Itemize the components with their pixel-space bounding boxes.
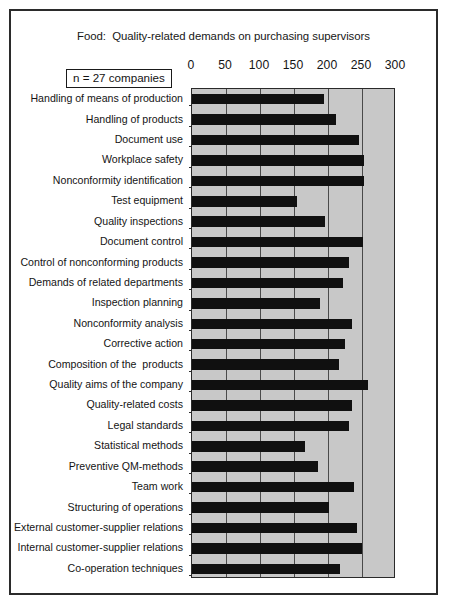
y-axis-tick — [189, 208, 192, 209]
category-label: Inspection planning — [92, 296, 183, 308]
y-axis-tick — [189, 269, 192, 270]
bar[interactable] — [192, 176, 364, 187]
y-axis-tick — [189, 555, 192, 556]
bar-row — [192, 298, 394, 309]
bar-row — [192, 380, 394, 391]
category-label: Handling of products — [86, 113, 183, 125]
category-label: Internal customer-supplier relations — [18, 541, 183, 553]
page-title: Food: Quality-related demands on purchas… — [11, 30, 436, 42]
bar[interactable] — [192, 482, 354, 493]
x-tick-label-0: 0 — [188, 58, 195, 72]
bar-row — [192, 319, 394, 330]
y-axis-tick — [189, 514, 192, 515]
bar[interactable] — [192, 339, 345, 350]
bar-row — [192, 155, 394, 166]
y-axis-tick — [189, 432, 192, 433]
y-axis-tick — [189, 248, 192, 249]
bar[interactable] — [192, 237, 363, 248]
bar[interactable] — [192, 94, 324, 105]
category-label: Co-operation techniques — [68, 562, 183, 574]
bar[interactable] — [192, 155, 364, 166]
bar[interactable] — [192, 400, 352, 411]
bar-row — [192, 216, 394, 227]
bar[interactable] — [192, 461, 318, 472]
category-label: Quality inspections — [94, 215, 183, 227]
plot-area — [191, 88, 395, 578]
y-axis-tick — [189, 453, 192, 454]
bar[interactable] — [192, 564, 340, 575]
bar[interactable] — [192, 441, 305, 452]
y-axis-tick — [189, 167, 192, 168]
category-label: Nonconformity identification — [53, 174, 183, 186]
y-axis-tick — [189, 146, 192, 147]
y-axis-tick — [189, 187, 192, 188]
y-axis-tick — [189, 350, 192, 351]
y-axis-tick — [189, 412, 192, 413]
y-axis-tick — [189, 391, 192, 392]
category-label: Document control — [100, 235, 183, 247]
x-tick-label-250: 250 — [351, 58, 371, 72]
bar-row — [192, 502, 394, 513]
bar-row — [192, 176, 394, 187]
bar[interactable] — [192, 319, 352, 330]
category-label: Quality aims of the company — [49, 378, 183, 390]
y-axis-tick — [189, 289, 192, 290]
x-tick-label-300: 300 — [385, 58, 405, 72]
category-label: Control of nonconforming products — [20, 256, 183, 268]
bar[interactable] — [192, 257, 349, 268]
bar[interactable] — [192, 543, 362, 554]
bar[interactable] — [192, 298, 320, 309]
y-axis-tick — [189, 330, 192, 331]
y-axis-tick — [189, 534, 192, 535]
bar[interactable] — [192, 216, 325, 227]
bar-row — [192, 421, 394, 432]
bar[interactable] — [192, 502, 329, 513]
bar-row — [192, 543, 394, 554]
x-tick-label-100: 100 — [249, 58, 269, 72]
y-axis-tick — [189, 473, 192, 474]
category-label: Structuring of operations — [68, 501, 183, 513]
y-axis-tick — [189, 575, 192, 576]
bar-row — [192, 278, 394, 289]
y-axis-tick — [189, 105, 192, 106]
y-axis-tick — [189, 310, 192, 311]
bar[interactable] — [192, 135, 359, 146]
bar-row — [192, 237, 394, 248]
bar-row — [192, 564, 394, 575]
x-tick-label-200: 200 — [317, 58, 337, 72]
bar-row — [192, 482, 394, 493]
bar-row — [192, 196, 394, 207]
bar[interactable] — [192, 421, 349, 432]
category-label: Document use — [115, 133, 183, 145]
bar-row — [192, 339, 394, 350]
category-label: External customer-supplier relations — [14, 521, 183, 533]
bar-row — [192, 94, 394, 105]
bar[interactable] — [192, 359, 339, 370]
category-label: Statistical methods — [94, 439, 183, 451]
y-axis-category-labels: Handling of means of productionHandling … — [0, 88, 187, 578]
category-label: Team work — [132, 480, 183, 492]
category-label: Demands of related departments — [29, 276, 183, 288]
category-label: Quality-related costs — [86, 398, 183, 410]
bar-row — [192, 257, 394, 268]
bar[interactable] — [192, 523, 357, 534]
category-label: Workplace safety — [102, 153, 183, 165]
bar[interactable] — [192, 196, 297, 207]
x-tick-label-150: 150 — [283, 58, 303, 72]
bar-row — [192, 441, 394, 452]
category-label: Test equipment — [111, 194, 183, 206]
bar[interactable] — [192, 114, 336, 125]
x-axis-tick-labels: 050100150200250300 — [0, 58, 449, 76]
bar[interactable] — [192, 380, 368, 391]
bar-row — [192, 135, 394, 146]
x-tick-label-50: 50 — [218, 58, 232, 72]
category-label: Handling of means of production — [30, 92, 183, 104]
bar-row — [192, 523, 394, 534]
category-label: Nonconformity analysis — [73, 317, 183, 329]
y-axis-tick — [189, 371, 192, 372]
category-label: Preventive QM-methods — [69, 460, 183, 472]
bar-row — [192, 114, 394, 125]
bar-row — [192, 359, 394, 370]
category-label: Corrective action — [104, 337, 183, 349]
bar[interactable] — [192, 278, 343, 289]
